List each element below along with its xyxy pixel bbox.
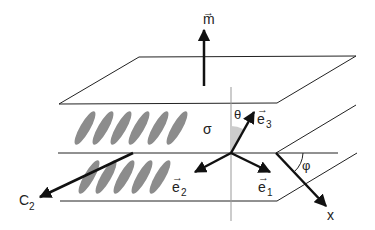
c2-label: C xyxy=(19,192,29,208)
phi-label: φ xyxy=(302,158,310,173)
e1-label: e xyxy=(258,179,266,195)
smectic-c-layer-diagram: → m σ θ → e 3 → e 2 → e 1 φ C 2 x xyxy=(0,0,375,230)
bottom-layer-edge xyxy=(277,153,357,201)
top-layer-plane xyxy=(59,56,356,104)
theta-label: θ xyxy=(234,107,241,122)
e2-subscript: 2 xyxy=(181,187,187,198)
x-label: x xyxy=(327,207,334,223)
e3-subscript: 3 xyxy=(266,119,272,130)
m-label: m xyxy=(203,11,215,27)
e1-vector-arrow xyxy=(231,153,270,172)
sigma-label: σ xyxy=(203,121,212,137)
e2-label: e xyxy=(172,179,180,195)
upper-molecules xyxy=(71,109,191,147)
e3-label: e xyxy=(257,111,265,127)
e2-vector-arrow xyxy=(195,153,231,172)
middle-layer-edge xyxy=(276,105,356,153)
lower-molecules xyxy=(75,158,174,196)
e1-subscript: 1 xyxy=(267,187,273,198)
c2-subscript: 2 xyxy=(29,201,35,212)
